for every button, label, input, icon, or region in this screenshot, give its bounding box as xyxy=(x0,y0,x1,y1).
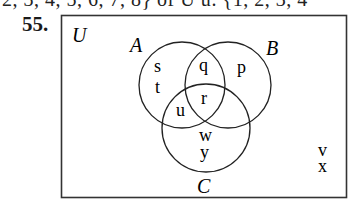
element-t: t xyxy=(155,77,160,97)
venn-diagram: U A B C s t q p r u w y v x xyxy=(0,0,358,204)
set-c-label: C xyxy=(197,175,211,197)
universe-label: U xyxy=(72,24,88,46)
element-q: q xyxy=(199,55,208,75)
element-p: p xyxy=(237,57,246,77)
element-s: s xyxy=(154,56,161,76)
set-b-label: B xyxy=(266,37,278,59)
element-x: x xyxy=(318,156,327,176)
set-a-label: A xyxy=(128,34,143,56)
element-y: y xyxy=(200,142,209,162)
element-r: r xyxy=(201,88,207,108)
element-u: u xyxy=(176,100,185,120)
